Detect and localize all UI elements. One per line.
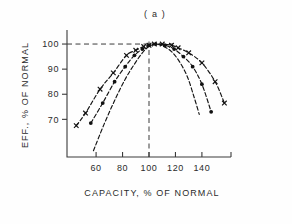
narrow-range-curve-line (93, 44, 199, 151)
wide-range-curve-point (74, 123, 79, 128)
y-tick-label: 100 (42, 39, 59, 49)
mid-range-curve-point (200, 82, 204, 86)
mid-range-curve-point (123, 65, 127, 69)
mid-range-curve-point (191, 65, 195, 69)
wide-range-curve-point (186, 51, 191, 56)
mid-range-curve-point (181, 55, 185, 59)
y-axis-title: EFF., % OF NORMAL (20, 42, 30, 148)
mid-range-curve-point (172, 47, 176, 51)
data-markers (74, 42, 227, 128)
wide-range-curve-point (200, 61, 205, 66)
wide-range-curve-point (83, 111, 88, 116)
mid-range-curve-point (209, 110, 213, 114)
x-tick-label: 60 (90, 163, 101, 173)
wide-range-curve-point (222, 101, 227, 106)
mid-range-curve-point (113, 80, 117, 84)
chart-page: ( a ) 708090100 6080100120140 CAPACITY, … (0, 0, 292, 224)
wide-range-curve-point (124, 53, 129, 58)
mid-range-curve-point (133, 53, 137, 57)
x-tick-label: 140 (193, 163, 210, 173)
y-tick-label: 80 (48, 89, 59, 99)
x-axis-ticks: 6080100120140 (90, 152, 210, 173)
data-curves (76, 44, 224, 151)
mid-range-curve-point (89, 121, 93, 125)
mid-range-curve-point (163, 43, 167, 47)
wide-range-curve-point (213, 79, 218, 84)
y-axis-ticks: 708090100 (42, 39, 67, 124)
x-tick-label: 100 (141, 163, 158, 173)
wide-range-curve-point (111, 71, 116, 76)
y-tick-label: 90 (48, 64, 59, 74)
mid-range-curve-point (154, 42, 158, 46)
panel-title: ( a ) (144, 9, 166, 19)
wide-range-curve-point (98, 87, 103, 92)
efficiency-vs-capacity-chart: ( a ) 708090100 6080100120140 CAPACITY, … (0, 0, 292, 224)
mid-range-curve-point (140, 47, 144, 51)
y-tick-label: 70 (48, 115, 59, 125)
x-tick-label: 80 (117, 163, 128, 173)
mid-range-curve-line (91, 44, 211, 123)
mid-range-curve-point (147, 43, 151, 47)
x-tick-label: 120 (167, 163, 184, 173)
x-axis-title: CAPACITY, % OF NORMAL (84, 188, 219, 198)
wide-range-curve-point (133, 48, 138, 53)
reference-lines (67, 40, 173, 157)
wide-range-curve-point (176, 46, 181, 51)
mid-range-curve-point (101, 101, 105, 105)
